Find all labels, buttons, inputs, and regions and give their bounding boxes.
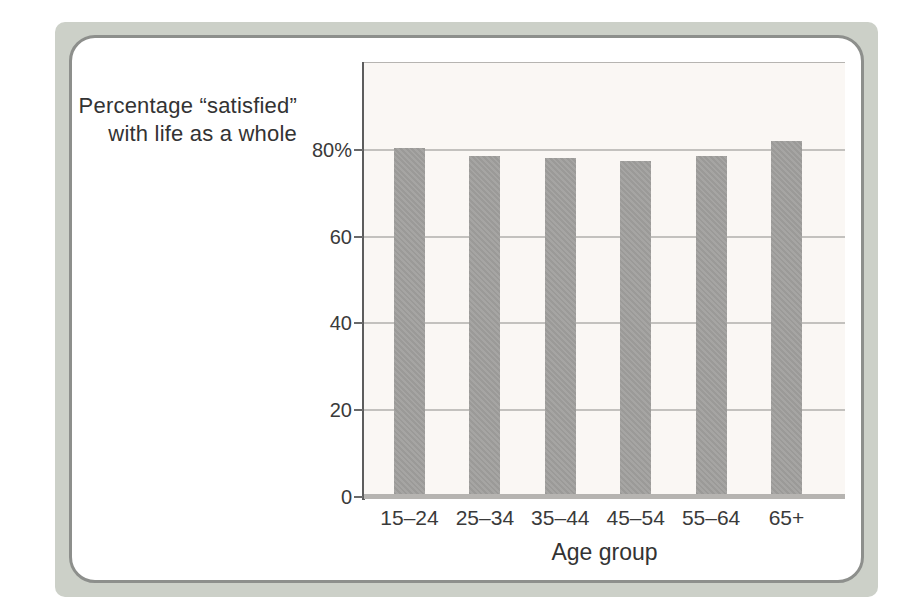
y-tick-label-20: 20 <box>272 397 352 423</box>
bar-15–24 <box>394 148 425 497</box>
bar-45–54 <box>620 161 651 497</box>
x-axis-title: Age group <box>364 539 845 566</box>
y-tick-label-0: 0 <box>272 484 352 510</box>
y-tick-label-40: 40 <box>272 310 352 336</box>
x-tick-label-55–64: 55–64 <box>682 506 740 530</box>
plot-area <box>364 63 845 497</box>
bar-65+ <box>771 141 802 497</box>
x-tick-label-35–44: 35–44 <box>531 506 589 530</box>
chart-title-line2: with life as a whole <box>75 120 297 148</box>
y-tick-label-60: 60 <box>272 224 352 250</box>
y-tick-mark-20 <box>354 409 363 411</box>
y-tick-mark-40 <box>354 322 363 324</box>
bar-35–44 <box>545 158 576 497</box>
bar-55–64 <box>696 156 727 497</box>
x-tick-label-15–24: 15–24 <box>380 506 438 530</box>
chart-title: Percentage “satisfied” with life as a wh… <box>75 92 297 148</box>
y-tick-mark-0 <box>354 496 363 498</box>
chart-title-line1: Percentage “satisfied” <box>75 92 297 120</box>
y-tick-mark-60 <box>354 236 363 238</box>
y-tick-label-80: 80% <box>272 137 352 163</box>
x-tick-label-25–34: 25–34 <box>456 506 514 530</box>
y-tick-mark-80 <box>354 149 363 151</box>
bar-25–34 <box>469 156 500 497</box>
x-tick-label-45–54: 45–54 <box>606 506 664 530</box>
figure-page: Percentage “satisfied” with life as a wh… <box>0 0 921 614</box>
x-axis-baseline <box>364 494 845 499</box>
x-tick-label-65+: 65+ <box>769 506 805 530</box>
